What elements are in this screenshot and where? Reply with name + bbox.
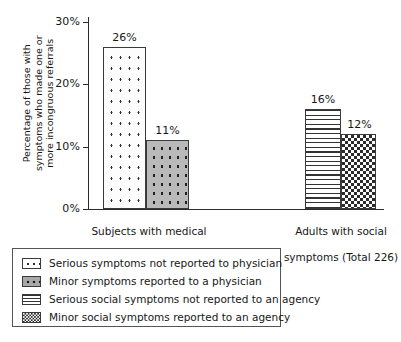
sparse-dots-swatch-icon bbox=[22, 258, 41, 269]
horizontal-lines-swatch-icon bbox=[22, 294, 41, 305]
checkerboard-swatch-icon bbox=[22, 312, 41, 323]
bar-serious-symptoms-not-reported[interactable] bbox=[103, 47, 146, 209]
gray-dots-swatch-icon bbox=[22, 276, 41, 287]
legend-item-serious-social[interactable]: Serious social symptoms not reported to … bbox=[13, 290, 280, 308]
legend-item-minor-symptoms[interactable]: Minor symptoms reported to a physician bbox=[13, 272, 280, 290]
x-group-label-social-line-1: Adults with social bbox=[295, 225, 387, 237]
legend-item-label: Serious social symptoms not reported to … bbox=[49, 293, 320, 305]
x-group-label-social-line-2: symptoms (Total 226) bbox=[284, 251, 398, 263]
bar-value-label-11: 11% bbox=[146, 125, 189, 136]
legend-item-serious-symptoms[interactable]: Serious symptoms not reported to physici… bbox=[13, 254, 280, 272]
legend-item-label: Minor symptoms reported to a physician bbox=[49, 275, 262, 287]
bar-value-label-12: 12% bbox=[341, 119, 378, 130]
legend-item-minor-social[interactable]: Minor social symptoms reported to an age… bbox=[13, 308, 280, 326]
y-tick-mark-0 bbox=[83, 209, 88, 210]
bar-minor-symptoms-reported[interactable] bbox=[146, 140, 189, 209]
bar-serious-social-not-reported[interactable] bbox=[305, 109, 341, 209]
bar-chart-figure: Percentage of those with symptoms who ma… bbox=[0, 0, 401, 342]
x-group-label-social: Adults with social symptoms (Total 226) bbox=[277, 212, 401, 264]
legend-item-label: Serious symptoms not reported to physici… bbox=[49, 257, 282, 269]
chart-legend: Serious symptoms not reported to physici… bbox=[12, 248, 281, 327]
bar-value-label-26: 26% bbox=[103, 32, 146, 43]
bar-minor-social-reported[interactable] bbox=[341, 134, 376, 209]
plot-area: Percentage of those with symptoms who ma… bbox=[0, 0, 401, 240]
bar-value-label-16: 16% bbox=[303, 94, 343, 105]
x-axis-line bbox=[88, 209, 384, 210]
legend-item-label: Minor social symptoms reported to an age… bbox=[49, 311, 290, 323]
x-group-label-medical-line-1: Subjects with medical bbox=[91, 225, 206, 237]
